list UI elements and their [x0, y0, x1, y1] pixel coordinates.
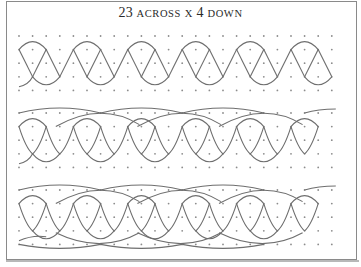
grid-dot: [263, 35, 265, 37]
curve-stroke: [73, 119, 100, 127]
curve-stroke: [114, 204, 128, 231]
curve-stroke: [182, 196, 209, 204]
grid-dot: [222, 244, 224, 246]
grid-dot: [331, 112, 333, 114]
grid-dot: [249, 216, 251, 218]
curve-stroke: [137, 113, 221, 126]
grid-dot: [222, 62, 224, 64]
grid-dot: [249, 203, 251, 205]
curve-stroke: [237, 50, 251, 77]
grid-dot: [290, 216, 292, 218]
curve-stroke: [291, 42, 318, 50]
grid-dot: [195, 189, 197, 191]
grid-dot: [222, 126, 224, 128]
curve-stroke: [128, 127, 142, 154]
curve-stroke: [237, 119, 264, 127]
grid-dot: [249, 49, 251, 51]
grid-dot: [141, 167, 143, 169]
grid-dot: [317, 230, 319, 232]
grid-dot: [113, 35, 115, 37]
grid-dot: [249, 244, 251, 246]
grid-dot: [195, 90, 197, 92]
grid-dot: [73, 139, 75, 141]
grid-dot: [59, 139, 61, 141]
grid-dot: [86, 126, 88, 128]
grid-dot: [18, 139, 20, 141]
grid-dot: [32, 244, 34, 246]
grid-dot: [290, 167, 292, 169]
grid-dot: [209, 244, 211, 246]
curve-stroke: [87, 127, 101, 154]
curve-stroke: [73, 204, 87, 231]
grid-dot: [304, 203, 306, 205]
grid-dot: [59, 112, 61, 114]
grid-dot: [59, 167, 61, 169]
grid-dot: [154, 230, 156, 232]
grid-dot: [32, 62, 34, 64]
grid-dot: [222, 112, 224, 114]
grid-dot: [59, 126, 61, 128]
grid-dot: [18, 35, 20, 37]
grid-dot: [181, 216, 183, 218]
curve-stroke: [141, 127, 155, 154]
curve-stroke: [237, 196, 264, 204]
grid-dot: [18, 153, 20, 155]
grid-dot: [86, 112, 88, 114]
grid-dot: [331, 49, 333, 51]
grid-dot: [86, 35, 88, 37]
curve-stroke: [73, 42, 100, 50]
curve-stroke: [73, 196, 100, 204]
grid-dot: [277, 49, 279, 51]
grid-dot: [168, 189, 170, 191]
grid-dot: [141, 62, 143, 64]
grid-dot: [195, 216, 197, 218]
grid-dot: [290, 76, 292, 78]
grid-dot: [181, 76, 183, 78]
grid-dot: [154, 216, 156, 218]
grid-dot: [290, 230, 292, 232]
grid-dot: [304, 49, 306, 51]
curve-stroke: [250, 154, 277, 162]
grid-dot: [141, 90, 143, 92]
grid-dot: [317, 139, 319, 141]
curve-stroke: [87, 231, 114, 239]
grid-dot: [45, 189, 47, 191]
curve-stroke: [137, 190, 221, 203]
curve-stroke: [87, 50, 101, 77]
grid-dot: [113, 126, 115, 128]
grid-dot: [154, 112, 156, 114]
curve-stroke: [305, 127, 319, 154]
curve-stroke: [223, 127, 237, 154]
curve-stroke: [155, 127, 169, 154]
grid-dot: [209, 76, 211, 78]
grid-dot: [100, 230, 102, 232]
grid-dot: [290, 244, 292, 246]
grid-dot: [181, 153, 183, 155]
grid-dot: [73, 112, 75, 114]
grid-dot: [18, 90, 20, 92]
grid-dot: [249, 139, 251, 141]
curve-stroke: [87, 204, 101, 231]
grid-dot: [181, 62, 183, 64]
curve-stroke: [33, 231, 60, 239]
curve-stroke: [250, 204, 264, 231]
grid-dot: [195, 203, 197, 205]
curve-stroke: [137, 233, 221, 244]
grid-dot: [154, 62, 156, 64]
grid-dot: [304, 90, 306, 92]
curve-stroke: [209, 127, 223, 154]
grid-dot: [32, 49, 34, 51]
curve-stroke: [19, 154, 33, 164]
grid-dot: [222, 216, 224, 218]
grid-dot: [168, 216, 170, 218]
grid-dot: [331, 153, 333, 155]
curve-stroke: [250, 231, 277, 239]
grid-dot: [113, 139, 115, 141]
grid-dot: [18, 76, 20, 78]
grid-dot: [141, 49, 143, 51]
curve-stroke: [264, 204, 278, 231]
curve-stroke: [277, 50, 291, 77]
curve-stroke: [19, 127, 33, 154]
grid-dot: [113, 62, 115, 64]
curve-stroke: [196, 204, 210, 231]
